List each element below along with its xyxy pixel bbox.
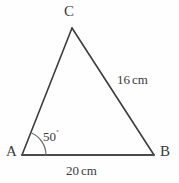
vertex-label-b: B [160,144,170,159]
side-length-label-ab: 20cm [66,164,97,177]
side-bc-unit: cm [132,72,148,87]
vertex-label-a: A [6,144,17,159]
degree-symbol-icon: ˚ [56,128,59,138]
triangle-figure: A B C 50˚ 16cm 20cm [0,0,179,183]
side-bc-value: 16 [117,72,130,87]
side-cb-line [72,28,154,155]
angle-measure-label-a: 50˚ [43,129,59,143]
angle-value-a: 50 [43,129,56,144]
triangle-drawing [0,0,179,183]
side-ab-unit: cm [81,163,97,178]
vertex-label-c: C [64,4,74,19]
side-length-label-bc: 16cm [117,73,148,86]
side-ab-value: 20 [66,163,79,178]
